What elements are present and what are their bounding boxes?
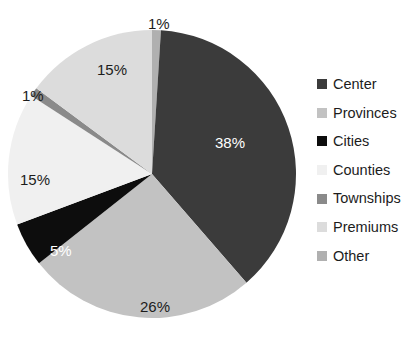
slice-label-other: 1% xyxy=(148,16,170,31)
legend-item-label: Center xyxy=(333,77,377,92)
legend-item-other[interactable]: Other xyxy=(317,242,415,271)
slice-label-premiums: 15% xyxy=(97,62,127,77)
legend-swatch-icon xyxy=(317,194,327,204)
slice-label-provinces: 26% xyxy=(140,299,170,314)
legend-item-premiums[interactable]: Premiums xyxy=(317,213,415,242)
legend-item-label: Townships xyxy=(333,191,401,206)
legend-swatch-icon xyxy=(317,222,327,232)
legend-swatch-icon xyxy=(317,165,327,175)
legend-item-label: Cities xyxy=(333,134,369,149)
legend-item-label: Other xyxy=(333,249,369,264)
legend-swatch-icon xyxy=(317,136,327,146)
legend-item-townships[interactable]: Townships xyxy=(317,184,415,213)
legend-swatch-icon xyxy=(317,79,327,89)
legend-swatch-icon xyxy=(317,108,327,118)
legend-item-cities[interactable]: Cities xyxy=(317,127,415,156)
pie-chart-figure: 1%38%26%5%15%1%15% CenterProvincesCities… xyxy=(0,0,415,341)
slice-label-center: 38% xyxy=(215,135,245,150)
legend-item-label: Provinces xyxy=(333,106,397,121)
legend-item-counties[interactable]: Counties xyxy=(317,156,415,185)
legend-item-center[interactable]: Center xyxy=(317,70,415,99)
pie-chart-plot-area: 1%38%26%5%15%1%15% xyxy=(0,0,305,341)
legend-swatch-icon xyxy=(317,251,327,261)
legend-item-label: Counties xyxy=(333,163,390,178)
slice-label-cities: 5% xyxy=(50,243,72,258)
slice-label-counties: 15% xyxy=(20,172,50,187)
slice-label-townships: 1% xyxy=(22,88,44,103)
legend-item-provinces[interactable]: Provinces xyxy=(317,99,415,128)
chart-legend: CenterProvincesCitiesCountiesTownshipsPr… xyxy=(317,70,415,270)
legend-item-label: Premiums xyxy=(333,220,398,235)
